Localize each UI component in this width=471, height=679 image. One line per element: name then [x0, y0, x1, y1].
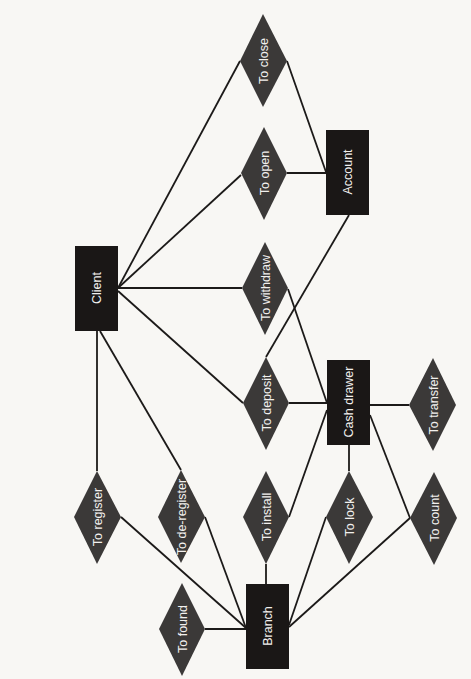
- entity-label: Account: [341, 149, 355, 195]
- edge-branch-to-lock: [289, 517, 326, 625]
- relationship-to-transfer[interactable]: To transfer: [409, 358, 456, 451]
- relationship-to-found[interactable]: To found: [159, 583, 205, 676]
- edge-client-to-deregister: [100, 331, 181, 470]
- entity-label: Cash drawer: [342, 367, 356, 438]
- edge-client-to-close: [118, 61, 240, 288]
- entity-cash-drawer[interactable]: Cash drawer: [327, 360, 370, 445]
- entity-account[interactable]: Account: [326, 130, 369, 215]
- relationship-label: To lock: [343, 497, 357, 537]
- edge-cashdrawer-to-count: [370, 415, 410, 518]
- entity-label: Branch: [261, 606, 275, 646]
- edge-account-to-close: [287, 61, 326, 172]
- edge-client-to-deposit: [118, 291, 243, 403]
- relationship-label: To deposit: [260, 374, 274, 432]
- relationship-to-lock[interactable]: To lock: [326, 471, 373, 564]
- entity-label: Client: [90, 271, 104, 303]
- relationship-to-register[interactable]: To register: [74, 471, 121, 564]
- edge-cashdrawer-to-install: [289, 410, 327, 517]
- relationship-to-open[interactable]: To open: [241, 127, 287, 220]
- relationship-to-count[interactable]: To count: [410, 472, 457, 565]
- relationship-to-deposit[interactable]: To deposit: [243, 357, 289, 450]
- relationship-label: To close: [257, 38, 271, 84]
- relationship-label: To transfer: [427, 375, 441, 434]
- er-diagram: To close To open To withdraw To deposit …: [0, 0, 471, 679]
- relationship-label: To found: [176, 605, 190, 653]
- relationship-label: To install: [260, 493, 274, 542]
- edge-cashdrawer-to-withdraw: [288, 289, 327, 403]
- relationship-to-install[interactable]: To install: [243, 471, 289, 564]
- relationship-label: To de-register: [175, 479, 189, 555]
- edge-client-to-open: [118, 175, 241, 288]
- entity-client[interactable]: Client: [75, 246, 118, 331]
- relationship-to-deregister[interactable]: To de-register: [158, 470, 205, 563]
- relationship-to-close[interactable]: To close: [240, 14, 287, 107]
- relationship-label: To open: [258, 151, 272, 196]
- entity-branch[interactable]: Branch: [246, 584, 289, 669]
- relationship-label: To withdraw: [259, 254, 273, 321]
- edge-branch-to-deregister: [205, 517, 246, 628]
- relationship-to-withdraw[interactable]: To withdraw: [242, 242, 288, 335]
- relationship-label: To register: [91, 488, 105, 546]
- relationship-label: To count: [428, 494, 442, 542]
